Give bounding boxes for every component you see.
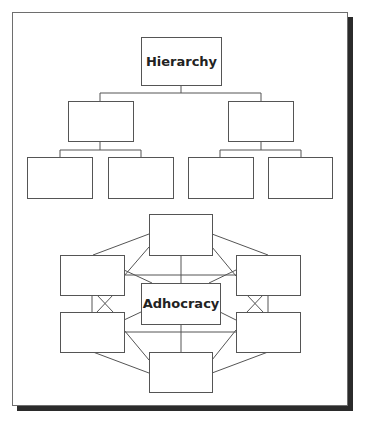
hierarchy-bottom-box-2 [109,158,174,199]
adhocracy-label: Adhocracy [143,296,220,311]
adhocracy-upper-left-box [61,256,125,296]
hierarchy-bottom-box-4 [269,158,333,199]
hierarchy-bottom-box-1 [28,158,93,199]
hierarchy-label: Hierarchy [146,54,218,69]
org-structure-diagram: Hierarchy [0,0,367,424]
adhocracy-bottom-box [150,353,213,393]
hierarchy-chart: Hierarchy [28,38,333,199]
hierarchy-bottom-box-3 [189,158,254,199]
hierarchy-mid-box-left [69,102,134,142]
adhocracy-chart: Adhocracy [61,215,301,393]
adhocracy-lower-right-box [237,313,301,353]
adhocracy-lower-left-box [61,313,125,353]
hierarchy-mid-box-right [229,102,294,142]
adhocracy-upper-right-box [237,256,301,296]
adhocracy-top-box [150,215,213,256]
